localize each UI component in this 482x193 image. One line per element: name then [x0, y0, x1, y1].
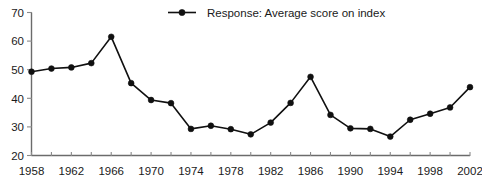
- data-point-marker: 1958: 49.3: [29, 69, 35, 75]
- x-axis-tick-label: 1966: [98, 165, 124, 177]
- data-point-marker: 1998: 34.6: [427, 111, 433, 117]
- y-axis-tick-label: 60: [11, 35, 24, 47]
- x-axis-tick-label: 1982: [258, 165, 284, 177]
- x-axis-tick-label: 1990: [338, 165, 364, 177]
- x-axis-tick-label: 1958: [19, 165, 45, 177]
- data-point-marker: 1968: 45.3: [128, 80, 134, 86]
- data-point-marker: 1994: 26.6: [387, 134, 393, 140]
- x-axis-tick-label: 1994: [377, 165, 403, 177]
- line-chart: 2030405060701958196219661970197419781982…: [0, 0, 482, 193]
- chart-legend: Response: Average score on index: [168, 7, 385, 19]
- data-point-marker: 1986: 47.5: [308, 74, 314, 80]
- data-point-marker: 1980: 27.4: [248, 131, 254, 137]
- data-point-marker: 2002: 43.9: [467, 84, 473, 90]
- x-axis-tick-label: 1998: [417, 165, 443, 177]
- y-axis-tick-label: 30: [11, 121, 24, 133]
- series-line-response: [32, 37, 471, 137]
- data-point-marker: 1976: 30.4: [208, 123, 214, 129]
- data-point-marker: 1970: 39.4: [148, 97, 154, 103]
- data-point-marker: 2000: 36.8: [447, 105, 453, 111]
- x-axis-tick-label: 2002: [457, 165, 482, 177]
- series-group: 1958: 49.31960: 50.41962: 50.81964: 52.3…: [29, 34, 473, 140]
- x-axis-tick-label: 1962: [59, 165, 85, 177]
- data-point-marker: 1982: 31.5: [268, 120, 274, 126]
- data-point-marker: 1972: 38.3: [168, 100, 174, 106]
- data-point-marker: 1984: 38.4: [288, 100, 294, 106]
- data-point-marker: 1962: 50.8: [68, 65, 74, 71]
- x-axis-tick-label: 1970: [138, 165, 164, 177]
- data-point-marker: 1966: 61.5: [108, 34, 114, 40]
- legend-marker-sample: [179, 9, 185, 15]
- data-point-marker: 1978: 29.2: [228, 126, 234, 132]
- y-axis-tick-label: 70: [11, 7, 24, 19]
- data-point-marker: 1990: 29.5: [348, 125, 354, 131]
- x-axis-tick-label: 1986: [298, 165, 324, 177]
- data-point-marker: 1964: 52.3: [88, 60, 94, 66]
- legend-label: Response: Average score on index: [207, 7, 385, 19]
- chart-canvas: 2030405060701958196219661970197419781982…: [0, 0, 482, 193]
- y-axis-tick-label: 40: [11, 93, 24, 105]
- data-point-marker: 1974: 29.3: [188, 126, 194, 132]
- x-axis-tick-label: 1978: [218, 165, 244, 177]
- data-point-marker: 1988: 34.2: [328, 112, 334, 118]
- y-axis-tick-label: 50: [11, 64, 24, 76]
- y-axis-tick-label: 20: [11, 150, 24, 162]
- data-point-marker: 1992: 29.3: [367, 126, 373, 132]
- x-axis-tick-label: 1974: [178, 165, 204, 177]
- data-point-marker: 1996: 32.5: [407, 117, 413, 123]
- data-point-marker: 1960: 50.4: [49, 66, 55, 72]
